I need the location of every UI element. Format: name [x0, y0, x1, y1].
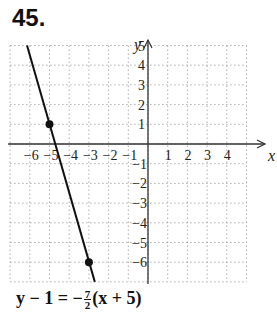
- y-tick-label: −5: [132, 236, 147, 251]
- equation-lhs: y − 1 = −: [16, 288, 83, 308]
- data-point: [46, 120, 54, 128]
- y-tick-label: 3: [138, 78, 145, 93]
- x-tick-label: −6: [24, 148, 39, 163]
- x-tick-label: 3: [204, 148, 211, 163]
- y-tick-label: −6: [132, 255, 147, 270]
- x-tick-label: −4: [63, 148, 78, 163]
- x-tick-label: 2: [184, 148, 191, 163]
- fraction-denominator: 2: [84, 300, 92, 310]
- y-tick-label: 2: [138, 98, 145, 113]
- coordinate-graph: xy−6−5−4−3−2−1123454321−1−2−3−4−5−6: [0, 0, 277, 290]
- x-tick-label: 4: [224, 148, 231, 163]
- plotted-line: [27, 46, 95, 282]
- equation-rhs: (x + 5): [92, 288, 141, 308]
- x-tick-label: 1: [165, 148, 172, 163]
- y-tick-label: 5: [138, 39, 145, 54]
- x-tick-label: −3: [83, 148, 98, 163]
- slope-fraction: 72: [84, 289, 92, 310]
- y-tick-label: 1: [138, 117, 145, 132]
- line-equation: y − 1 = −72(x + 5): [16, 288, 142, 310]
- x-tick-label: −2: [103, 148, 118, 163]
- y-tick-label: −2: [132, 176, 147, 191]
- y-tick-label: 4: [138, 58, 145, 73]
- y-tick-label: −1: [132, 157, 147, 172]
- data-point: [85, 258, 93, 266]
- y-tick-label: −3: [132, 196, 147, 211]
- x-axis-label: x: [267, 147, 275, 164]
- y-tick-label: −4: [132, 216, 147, 231]
